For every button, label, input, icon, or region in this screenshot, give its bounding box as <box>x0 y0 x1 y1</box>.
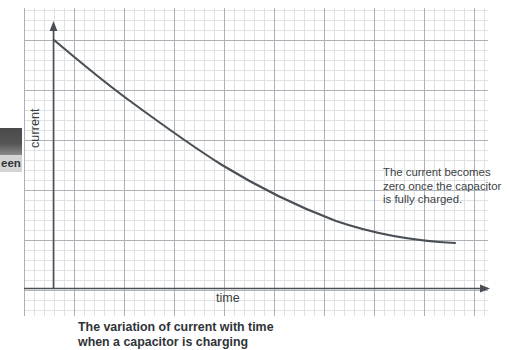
x-axis-arrow-icon <box>480 285 490 293</box>
annotation-line-2: zero once the capacitor <box>383 180 510 194</box>
curve-annotation: The current becomes zero once the capaci… <box>383 166 510 207</box>
caption-line-2: when a capacitor is charging <box>78 335 274 350</box>
figure-caption: The variation of current with time when … <box>78 320 274 349</box>
x-axis <box>24 285 490 293</box>
page-margin-tab <box>0 128 22 156</box>
annotation-line-1: The current becomes <box>383 166 510 180</box>
x-axis-label: time <box>216 291 240 305</box>
caption-line-1: The variation of current with time <box>78 320 274 335</box>
page-margin-tab-label: een <box>0 155 22 172</box>
annotation-line-3: is fully charged. <box>383 193 510 207</box>
y-axis-arrow-icon <box>50 21 58 31</box>
current-decay-curve <box>54 40 455 243</box>
y-axis-label: current <box>28 108 42 148</box>
figure-root: current time The current becomes zero on… <box>0 0 510 350</box>
y-axis <box>50 21 58 289</box>
